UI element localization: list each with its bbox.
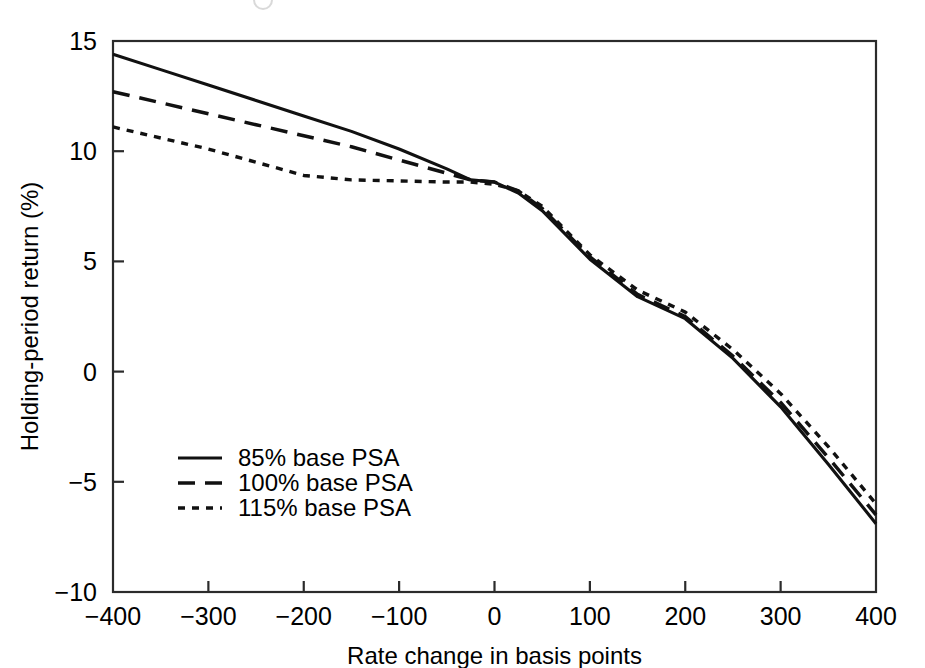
y-tick-label-0: 0 xyxy=(83,358,97,386)
legend-label-2: 115% base PSA xyxy=(238,494,411,521)
x-tick-label--200: −200 xyxy=(276,602,332,630)
series-layer xyxy=(113,54,876,523)
x-axis-title: Rate change in basis points xyxy=(347,642,642,668)
x-tick-label--400: −400 xyxy=(85,602,141,630)
x-tick-label-400: 400 xyxy=(855,602,897,630)
labels-layer: −10−5051015−400−300−200−1000100200300400… xyxy=(16,27,897,668)
legend-label-1: 100% base PSA xyxy=(238,469,413,496)
y-tick-label-10: 10 xyxy=(69,137,97,165)
line-chart: −10−5051015−400−300−200−1000100200300400… xyxy=(0,0,925,668)
y-tick-label--5: −5 xyxy=(68,468,97,496)
legend-layer: 85% base PSA100% base PSA115% base PSA xyxy=(178,444,413,521)
plot-frame xyxy=(113,41,876,592)
legend-label-0: 85% base PSA xyxy=(238,444,399,471)
x-tick-label--100: −100 xyxy=(371,602,427,630)
x-tick-label--300: −300 xyxy=(180,602,236,630)
y-tick-label-15: 15 xyxy=(69,27,97,55)
x-tick-label-0: 0 xyxy=(488,602,502,630)
y-tick-label-5: 5 xyxy=(83,247,97,275)
y-axis-title: Holding-period return (%) xyxy=(16,182,43,451)
chart-figure: −10−5051015−400−300−200−1000100200300400… xyxy=(0,0,925,668)
axes-layer xyxy=(113,41,876,592)
x-tick-label-100: 100 xyxy=(569,602,611,630)
x-tick-label-300: 300 xyxy=(760,602,802,630)
series-line-solid xyxy=(113,54,876,523)
x-tick-label-200: 200 xyxy=(664,602,706,630)
